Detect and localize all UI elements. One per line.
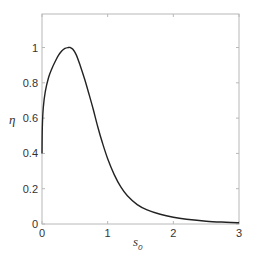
y-tick-label: 0.2: [23, 183, 38, 195]
y-tick-label: 0: [32, 218, 38, 230]
x-tick-label: 2: [170, 227, 176, 239]
x-tick-label: 3: [236, 227, 242, 239]
x-axis-label: s0: [133, 234, 143, 252]
y-tick-label: 0.4: [23, 147, 38, 159]
plot-frame: [42, 14, 239, 224]
y-tick-label: 0.8: [23, 77, 38, 89]
y-tick-label: 0.6: [23, 112, 38, 124]
line-chart: 012300.20.40.60.81 η s0: [0, 0, 253, 267]
x-tick-label: 0: [39, 227, 45, 239]
y-axis-label: η: [9, 112, 15, 127]
y-tick-label: 1: [32, 42, 38, 54]
axis-ticks: [42, 14, 239, 224]
x-tick-label: 1: [105, 227, 111, 239]
tick-labels: 012300.20.40.60.81: [23, 42, 242, 239]
data-series-eta: [42, 47, 239, 222]
